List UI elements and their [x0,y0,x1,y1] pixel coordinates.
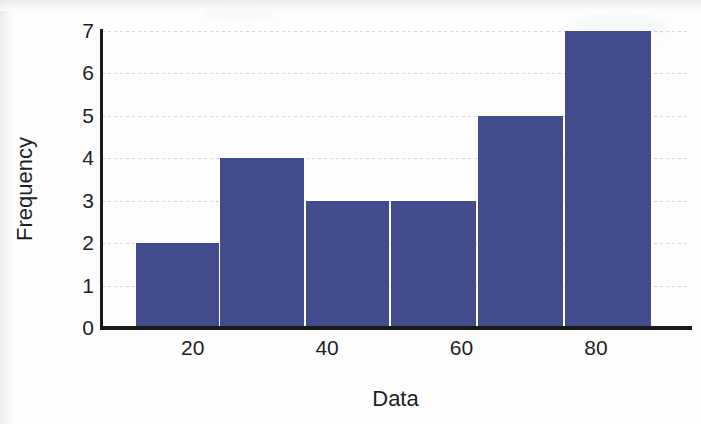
bar [565,31,651,328]
x-axis-title: Data [0,386,701,412]
y-axis-tick-label: 3 [54,190,94,211]
scan-smudge-artifact [205,6,275,20]
x-axis-line [100,326,692,330]
x-axis-tick-label: 20 [158,337,228,358]
y-axis-title: Frequency [12,119,38,259]
bar [306,201,389,328]
bar [391,201,476,328]
y-axis-tick-label: 4 [54,147,94,168]
y-axis-tick-label: 0 [54,317,94,338]
y-axis-tick-label: 1 [54,275,94,296]
y-axis-tick-label: 2 [54,232,94,253]
histogram-figure: 01234567 20406080 Frequency Data [0,0,701,424]
y-axis-tick-labels: 01234567 [50,0,94,424]
y-axis-line [100,29,103,330]
x-axis-tick-label: 80 [561,337,631,358]
x-axis-title-text: Data [372,386,418,412]
y-axis-tick-label: 6 [54,62,94,83]
bar [478,116,563,328]
bar [136,243,219,328]
scan-edge-artifact-top [0,0,701,11]
x-axis-tick-label: 40 [292,337,362,358]
bar [220,158,304,328]
y-axis-tick-label: 5 [54,105,94,126]
plot-area [102,31,690,328]
y-axis-tick-label: 7 [54,20,94,41]
x-axis-tick-label: 60 [427,337,497,358]
